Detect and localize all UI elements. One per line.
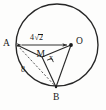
label-point-o: O [76,37,83,47]
label-point-a: A [3,39,10,49]
point-dot-o [69,43,73,47]
label-point-b: B [53,93,59,103]
segment-mo [42,45,71,57]
geometry-figure: A O B M 4√2 8 x [0,0,106,110]
label-segment-ab: 8 [21,66,25,74]
point-dot-b [55,86,57,88]
segment-ob [56,45,71,87]
label-point-m: M [37,50,45,60]
radical-icon: √2 [34,34,43,42]
label-segment-ao: 4√2 [30,34,43,42]
label-segment-mo: x [49,54,53,62]
